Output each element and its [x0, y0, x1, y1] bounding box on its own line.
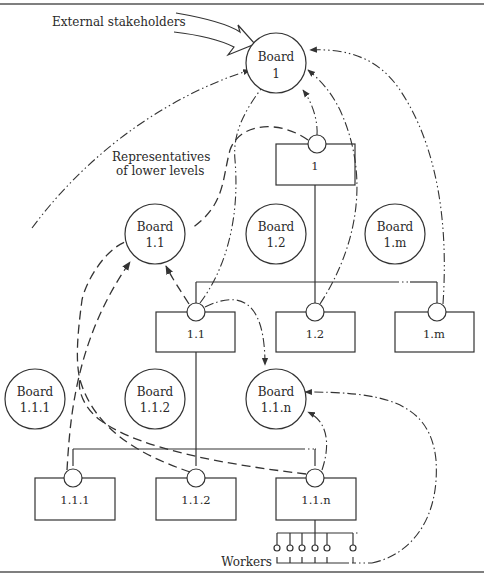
- svg-text:1: 1: [272, 67, 280, 81]
- svg-text:Board: Board: [258, 50, 295, 64]
- representatives-label-line1: Representatives: [112, 150, 210, 164]
- representative-nodes: [64, 135, 446, 487]
- board-1-1: Board 1.1: [125, 204, 185, 264]
- svg-text:1.1.n: 1.1.n: [301, 493, 331, 507]
- workers-group: [274, 533, 372, 563]
- svg-text:1.2: 1.2: [306, 327, 324, 341]
- svg-text:1.1.1: 1.1.1: [20, 401, 51, 415]
- svg-text:1.1: 1.1: [187, 327, 205, 341]
- workers-label: Workers: [221, 555, 272, 569]
- board-1-1-1: Board 1.1.1: [5, 369, 65, 429]
- svg-text:Board: Board: [377, 220, 414, 234]
- svg-text:1.1.2: 1.1.2: [140, 401, 171, 415]
- svg-text:1.1: 1.1: [145, 236, 164, 250]
- external-stakeholders-arrow: [174, 13, 255, 55]
- svg-text:Board: Board: [137, 220, 174, 234]
- representatives-label-line2: of lower levels: [116, 164, 204, 178]
- board-1-1-2: Board 1.1.2: [125, 369, 185, 429]
- board-hierarchy-diagram: External stakeholders Representatives of…: [0, 0, 484, 576]
- board-1-m: Board 1.m: [365, 204, 425, 264]
- svg-text:1.m: 1.m: [423, 327, 445, 341]
- board-1-2: Board 1.2: [246, 204, 306, 264]
- board-1: Board 1: [246, 33, 306, 93]
- svg-text:1.2: 1.2: [266, 236, 285, 250]
- svg-text:1.m: 1.m: [384, 236, 407, 250]
- svg-text:1.1.2: 1.1.2: [181, 493, 210, 507]
- external-stakeholders-label: External stakeholders: [52, 15, 186, 29]
- svg-text:Board: Board: [258, 385, 295, 399]
- svg-text:1.1.1: 1.1.1: [60, 493, 89, 507]
- svg-text:1: 1: [311, 159, 318, 173]
- svg-text:Board: Board: [258, 220, 295, 234]
- svg-text:1.1.n: 1.1.n: [261, 401, 292, 415]
- svg-text:Board: Board: [17, 385, 54, 399]
- svg-text:Board: Board: [137, 385, 174, 399]
- board-1-1-n: Board 1.1.n: [246, 369, 306, 429]
